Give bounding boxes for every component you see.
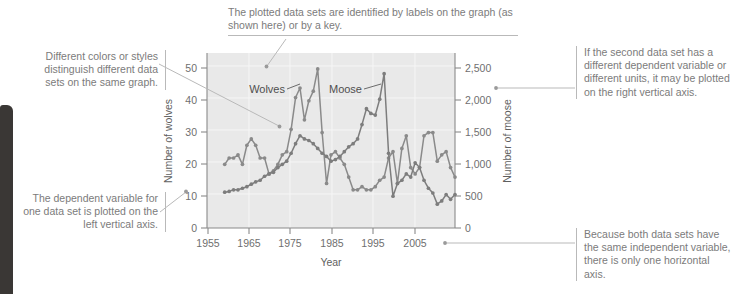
series-point xyxy=(241,186,245,190)
annotation-independent-variable: Because both data sets have the same ind… xyxy=(576,228,732,281)
series-point xyxy=(223,163,227,167)
series-point xyxy=(223,190,227,194)
series-point xyxy=(325,155,329,159)
series-point xyxy=(329,159,333,163)
series-point xyxy=(325,182,329,186)
series-point xyxy=(263,156,267,160)
series-point xyxy=(360,185,364,189)
ytick-label: 30 xyxy=(185,126,197,138)
series-point xyxy=(356,188,360,192)
series-point xyxy=(400,147,404,151)
series-point xyxy=(267,172,271,176)
series-point xyxy=(404,134,408,138)
series-point xyxy=(232,188,236,192)
series-point xyxy=(378,97,382,101)
series-point xyxy=(249,182,253,186)
series-point xyxy=(289,151,293,155)
series-point xyxy=(453,193,457,197)
series-point xyxy=(351,142,355,146)
series-point xyxy=(236,153,240,157)
series-point xyxy=(365,107,369,111)
xtick-label: 1965 xyxy=(237,237,261,249)
series-point xyxy=(431,131,435,135)
series-point xyxy=(303,118,307,122)
series-label-moose: Moose xyxy=(329,83,362,95)
x-axis: 1955 1965 1975 1985 1995 2005 Year xyxy=(196,228,455,268)
xtick-label: 1995 xyxy=(361,237,385,249)
series-point xyxy=(245,185,249,189)
series-point xyxy=(329,153,333,157)
series-point xyxy=(427,131,431,135)
series-point xyxy=(280,163,284,167)
series-point xyxy=(400,178,404,182)
series-point xyxy=(303,137,307,141)
series-point xyxy=(382,175,386,179)
series-point xyxy=(347,175,351,179)
series-point xyxy=(298,86,302,90)
series-point xyxy=(254,180,258,184)
series-point xyxy=(347,145,351,149)
series-point xyxy=(342,163,346,167)
series-point xyxy=(365,188,369,192)
series-point xyxy=(311,89,315,93)
annotation-datasets: The plotted data sets are identified by … xyxy=(228,6,518,36)
xtick-label: 1975 xyxy=(278,237,302,249)
series-point xyxy=(258,178,262,182)
series-point xyxy=(316,147,320,151)
series-point xyxy=(258,156,262,160)
right-axis: 0 500 1,000 1,500 2,000 2,500 Number of … xyxy=(455,53,513,234)
series-point xyxy=(320,151,324,155)
series-point xyxy=(254,143,258,147)
series-point xyxy=(298,134,302,138)
series-point xyxy=(334,150,338,154)
y2tick-label: 0 xyxy=(465,222,471,234)
series-point xyxy=(369,112,373,116)
series-point xyxy=(373,185,377,189)
y2-axis-title: Number of moose xyxy=(501,99,513,183)
series-point xyxy=(227,156,231,160)
xtick-label: 1985 xyxy=(320,237,344,249)
series-point xyxy=(435,159,439,163)
series-point xyxy=(391,150,395,154)
ytick-label: 0 xyxy=(191,222,197,234)
series-point xyxy=(391,194,395,198)
y2tick-label: 500 xyxy=(465,190,483,202)
series-point xyxy=(294,96,298,100)
series-point xyxy=(342,150,346,154)
annotation-dependent-variable: The dependent variable for one data set … xyxy=(22,192,166,232)
series-point xyxy=(245,143,249,147)
series-point xyxy=(334,158,338,162)
series-point xyxy=(285,150,289,154)
series-label-wolves: Wolves xyxy=(249,83,285,95)
series-point xyxy=(236,188,240,192)
series-point xyxy=(285,159,289,163)
ytick-label: 10 xyxy=(185,190,197,202)
ytick-label: 20 xyxy=(185,158,197,170)
y2tick-label: 1,000 xyxy=(465,158,491,170)
annotation-colors: Different colors or styles distinguish d… xyxy=(38,50,166,90)
series-point xyxy=(453,175,457,179)
xtick-label: 1955 xyxy=(196,237,220,249)
series-point xyxy=(431,191,435,195)
series-point xyxy=(378,178,382,182)
series-point xyxy=(369,188,373,192)
y2tick-label: 2,500 xyxy=(465,62,491,74)
series-point xyxy=(435,202,439,206)
series-point xyxy=(294,142,298,146)
x-axis-title: Year xyxy=(320,256,342,268)
y2tick-label: 2,000 xyxy=(465,94,491,106)
series-point xyxy=(387,151,391,155)
series-point xyxy=(307,99,311,103)
series-point xyxy=(440,153,444,157)
series-point xyxy=(263,174,267,178)
series-point xyxy=(356,137,360,141)
series-point xyxy=(422,134,426,138)
series-point xyxy=(316,67,320,71)
series-point xyxy=(449,166,453,170)
series-point xyxy=(280,153,284,157)
series-point xyxy=(418,166,422,170)
series-point xyxy=(444,193,448,197)
series-point xyxy=(307,139,311,143)
series-point xyxy=(444,150,448,154)
series-point xyxy=(382,72,386,76)
